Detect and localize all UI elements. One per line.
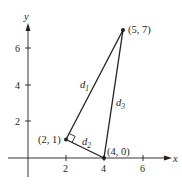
y-tick-2: 2	[15, 116, 20, 127]
point-label-5-7: (5, 7)	[128, 24, 151, 36]
y-axis-arrow-icon	[26, 23, 31, 31]
x-tick-4: 4	[101, 163, 106, 174]
points: (2, 1) (4, 0) (5, 7)	[38, 24, 151, 160]
y-axis-label: y	[23, 11, 29, 22]
x-axis-arrow-icon	[164, 156, 172, 161]
x-axis-label: x	[172, 153, 178, 164]
point-5-7	[121, 28, 125, 32]
x-tick-2: 2	[63, 163, 68, 174]
point-2-1	[64, 138, 68, 142]
y-tick-4: 4	[15, 80, 20, 91]
label-d3: d3	[116, 97, 125, 111]
point-label-4-0: (4, 0)	[107, 146, 130, 158]
triangle-diagram: x 2 4 6 y 2 4 6 (2, 1) (4, 0) (5, 7)	[0, 0, 182, 184]
triangle	[66, 30, 123, 158]
label-d1: d1	[80, 79, 89, 93]
x-tick-6: 6	[140, 163, 145, 174]
y-tick-6: 6	[15, 43, 20, 54]
x-axis: x 2 4 6	[8, 153, 178, 174]
segment-labels: d1 d2 d3	[80, 79, 125, 150]
y-axis: y 2 4 6	[15, 11, 31, 177]
point-4-0	[102, 156, 106, 160]
point-label-2-1: (2, 1)	[38, 134, 61, 146]
